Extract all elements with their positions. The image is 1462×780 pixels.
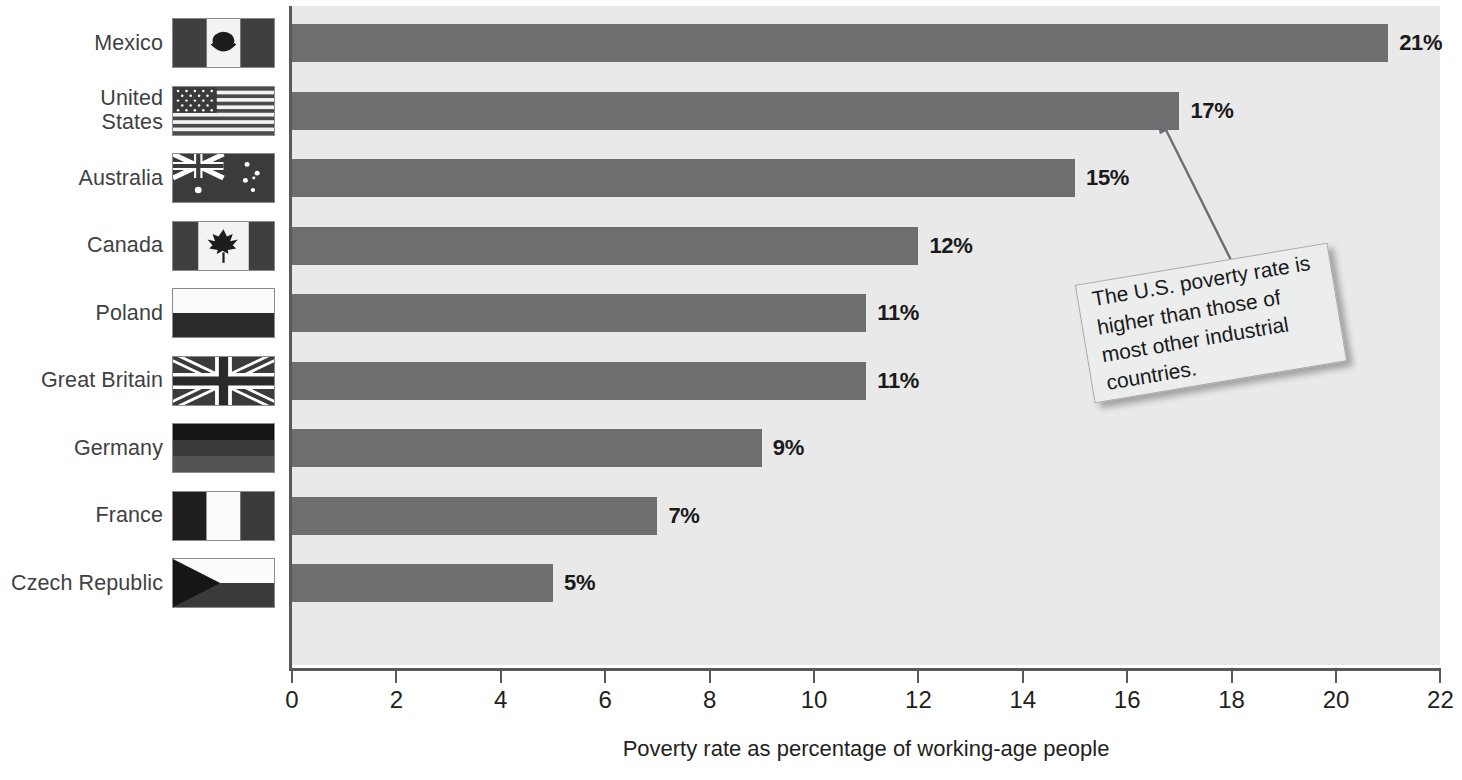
x-axis-tick	[500, 671, 502, 683]
category-label-text: UnitedStates	[100, 87, 163, 134]
x-axis-tick	[1231, 671, 1233, 683]
bar-value-label: 9%	[773, 429, 804, 467]
category-label-czech-republic: Czech Republic	[0, 551, 163, 615]
category-label-australia: Australia	[0, 146, 163, 210]
flag-czech-republic-icon	[172, 558, 275, 608]
x-axis-tick-label: 14	[993, 686, 1053, 714]
x-axis-tick	[604, 671, 606, 683]
table-row: Germany 9%	[0, 416, 1462, 480]
category-label-canada: Canada	[0, 214, 163, 278]
category-label-text: Poland	[95, 301, 163, 325]
category-label-france: France	[0, 484, 163, 548]
bar	[292, 497, 657, 535]
category-label-text: France	[95, 503, 163, 527]
bar	[292, 362, 866, 400]
bar-value-label: 7%	[668, 497, 699, 535]
x-axis-tick	[395, 671, 397, 683]
x-axis-tick-label: 22	[1410, 686, 1462, 714]
bar	[292, 24, 1388, 62]
category-label-text: Canada	[87, 233, 163, 257]
table-row: Australia 15%	[0, 146, 1462, 210]
x-axis-tick-label: 0	[262, 686, 322, 714]
category-label-text: Great Britain	[41, 368, 163, 392]
x-axis-tick-label: 10	[784, 686, 844, 714]
bar-value-label: 15%	[1086, 159, 1129, 197]
category-label-united-states: UnitedStates	[0, 79, 163, 143]
category-label-text: Australia	[78, 166, 163, 190]
x-axis-title: Poverty rate as percentage of working-ag…	[292, 736, 1440, 762]
bar-value-label: 17%	[1190, 92, 1233, 130]
category-label-text: Germany	[74, 436, 163, 460]
x-axis-tick-label: 8	[680, 686, 740, 714]
callout-text: The U.S. poverty rate is higher than tho…	[1090, 248, 1332, 397]
bar-chart: Mexico 21%UnitedStates 17%Australi	[0, 0, 1462, 780]
bar	[292, 564, 553, 602]
flag-mexico-icon	[172, 18, 275, 68]
category-label-poland: Poland	[0, 281, 163, 345]
flag-great-britain-icon	[172, 356, 275, 406]
x-axis-tick	[1126, 671, 1128, 683]
category-label-germany: Germany	[0, 416, 163, 480]
bar	[292, 429, 762, 467]
category-label-text: Czech Republic	[11, 571, 163, 595]
category-label-mexico: Mexico	[0, 11, 163, 75]
x-axis-tick-label: 16	[1097, 686, 1157, 714]
bar-value-label: 12%	[929, 227, 972, 265]
bar	[292, 159, 1075, 197]
bar-value-label: 11%	[877, 362, 919, 400]
callout-box: The U.S. poverty rate is higher than tho…	[1075, 243, 1347, 404]
x-axis-tick	[291, 671, 293, 683]
x-axis-line	[289, 668, 1441, 671]
x-axis-tick	[1335, 671, 1337, 683]
flag-canada-icon	[172, 221, 275, 271]
flag-australia-icon	[172, 153, 275, 203]
x-axis-tick-label: 4	[471, 686, 531, 714]
flag-germany-icon	[172, 423, 275, 473]
x-axis-tick-label: 2	[366, 686, 426, 714]
category-label-text: Mexico	[94, 31, 163, 55]
table-row: UnitedStates 17%	[0, 79, 1462, 143]
x-axis-tick-label: 12	[888, 686, 948, 714]
x-axis-tick-label: 20	[1306, 686, 1366, 714]
table-row: France 7%	[0, 484, 1462, 548]
flag-united-states-icon	[172, 86, 275, 136]
bar	[292, 294, 866, 332]
flag-poland-icon	[172, 288, 275, 338]
callout: The U.S. poverty rate is higher than tho…	[1083, 263, 1341, 423]
bar-value-label: 5%	[564, 564, 595, 602]
bar-value-label: 21%	[1399, 24, 1442, 62]
x-axis-tick	[917, 671, 919, 683]
x-axis-tick-label: 6	[575, 686, 635, 714]
bar	[292, 92, 1179, 130]
table-row: Mexico 21%	[0, 11, 1462, 75]
category-label-great-britain: Great Britain	[0, 349, 163, 413]
bar	[292, 227, 918, 265]
bar-value-label: 11%	[877, 294, 919, 332]
x-axis-tick-label: 18	[1202, 686, 1262, 714]
x-axis-tick	[709, 671, 711, 683]
flag-france-icon	[172, 491, 275, 541]
x-axis-tick	[1022, 671, 1024, 683]
x-axis-tick	[813, 671, 815, 683]
x-axis-tick	[1439, 671, 1441, 683]
table-row: Czech Republic 5%	[0, 551, 1462, 615]
